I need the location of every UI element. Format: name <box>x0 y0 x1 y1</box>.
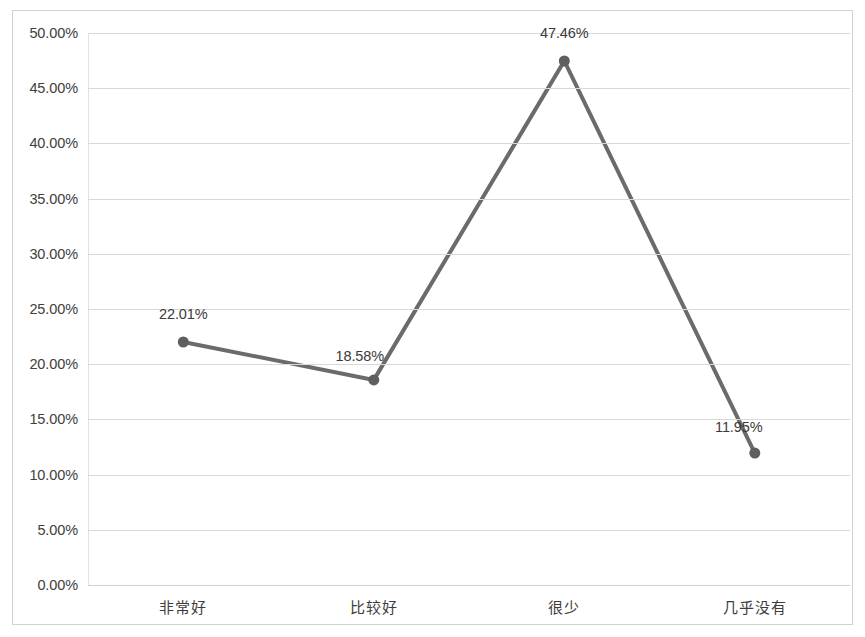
y-tick-label: 15.00% <box>29 411 78 427</box>
y-tick-label: 25.00% <box>29 301 78 317</box>
gridline <box>88 475 850 476</box>
y-tick-label: 35.00% <box>29 191 78 207</box>
x-tick-label: 几乎没有 <box>723 596 787 617</box>
x-tick-label: 很少 <box>548 596 580 617</box>
data-point-marker <box>559 56 570 67</box>
data-point-label: 11.95% <box>715 419 763 435</box>
y-tick-label: 45.00% <box>29 80 78 96</box>
gridline <box>88 254 850 255</box>
gridline <box>88 199 850 200</box>
data-point-label: 22.01% <box>159 306 208 322</box>
y-tick-label: 10.00% <box>29 467 78 483</box>
line-chart: 50.00%45.00%40.00%35.00%30.00%25.00%20.0… <box>0 0 865 637</box>
y-axis-tick-labels: 50.00%45.00%40.00%35.00%30.00%25.00%20.0… <box>0 0 78 637</box>
data-point-marker <box>178 337 189 348</box>
gridline <box>88 88 850 89</box>
data-point-marker <box>749 448 760 459</box>
gridline <box>88 143 850 144</box>
y-tick-label: 30.00% <box>29 246 78 262</box>
y-tick-label: 5.00% <box>37 522 78 538</box>
gridline <box>88 364 850 365</box>
y-tick-label: 20.00% <box>29 356 78 372</box>
data-point-marker <box>368 374 379 385</box>
y-tick-label: 50.00% <box>29 25 78 41</box>
y-tick-label: 0.00% <box>37 577 78 593</box>
data-point-label: 18.58% <box>335 348 384 364</box>
x-axis-line <box>88 585 850 586</box>
data-point-label: 47.46% <box>540 25 589 41</box>
x-tick-label: 比较好 <box>350 596 398 617</box>
gridline <box>88 530 850 531</box>
gridline <box>88 33 850 34</box>
x-tick-label: 非常好 <box>159 596 207 617</box>
series-polyline <box>183 61 755 453</box>
y-tick-label: 40.00% <box>29 135 78 151</box>
